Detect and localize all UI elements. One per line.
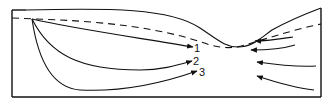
right-arrow-3 — [257, 62, 316, 66]
upper-boundary-curve — [26, 8, 321, 47]
streamline-3 — [32, 19, 197, 90]
right-arrow-2 — [251, 45, 295, 50]
frame — [12, 8, 321, 97]
left-streamlines — [32, 19, 197, 90]
label-3: 3 — [199, 66, 205, 78]
right-arrow-4 — [257, 76, 314, 90]
label-1: 1 — [194, 42, 200, 54]
dashed-line — [12, 18, 321, 48]
right-arrows — [251, 37, 316, 90]
flow-diagram: 1 2 3 — [0, 0, 331, 106]
streamline-2 — [32, 19, 192, 70]
